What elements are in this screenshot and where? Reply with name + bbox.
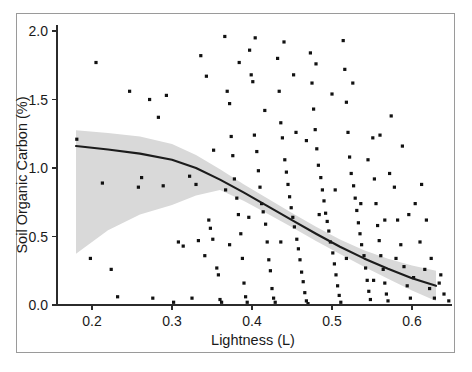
data-point	[288, 195, 291, 198]
data-point	[266, 240, 269, 243]
data-point	[366, 279, 369, 282]
data-point	[272, 297, 275, 300]
data-point	[330, 92, 333, 95]
data-point	[319, 176, 322, 179]
data-point	[162, 184, 165, 187]
data-point	[218, 298, 221, 301]
data-point	[295, 238, 298, 241]
data-point	[285, 171, 288, 174]
data-point	[334, 188, 337, 191]
data-point	[345, 257, 348, 260]
data-point	[379, 254, 382, 257]
data-point	[230, 135, 233, 138]
data-point	[286, 183, 289, 186]
data-point	[290, 206, 293, 209]
data-point	[172, 301, 175, 304]
data-point	[430, 257, 433, 260]
data-point	[447, 299, 450, 302]
data-point	[386, 299, 389, 302]
data-point	[248, 49, 251, 52]
data-point	[367, 290, 370, 293]
data-point	[383, 218, 386, 221]
data-point	[326, 220, 329, 223]
data-point	[246, 301, 249, 304]
data-point	[378, 239, 381, 242]
data-point	[237, 213, 240, 216]
data-point	[355, 209, 358, 212]
data-point	[182, 244, 185, 247]
data-point	[376, 224, 379, 227]
data-point	[217, 273, 220, 276]
x-axis-title: Lightness (L)	[211, 332, 295, 348]
data-point	[390, 114, 393, 117]
data-point	[199, 54, 202, 57]
data-point	[264, 223, 267, 226]
data-point	[188, 175, 191, 178]
data-point	[257, 169, 260, 172]
data-point	[382, 268, 385, 271]
data-point	[394, 257, 397, 260]
data-point	[407, 213, 410, 216]
data-point	[255, 150, 258, 153]
data-point	[433, 297, 436, 300]
data-point	[128, 90, 131, 93]
data-point	[418, 240, 421, 243]
data-point	[278, 90, 281, 93]
data-point	[251, 80, 254, 83]
data-point	[352, 184, 355, 187]
data-point	[354, 197, 357, 200]
scatter-plot: 0.00.51.01.52.00.20.30.40.50.6 Soil Orga…	[0, 0, 472, 372]
data-point	[300, 271, 303, 274]
data-point	[409, 297, 412, 300]
data-point	[262, 210, 265, 213]
data-point	[321, 188, 324, 191]
data-point	[334, 273, 337, 276]
data-point	[250, 73, 253, 76]
confidence-band-area	[76, 130, 436, 301]
data-point	[345, 101, 348, 104]
data-point	[294, 131, 297, 134]
data-point	[282, 40, 285, 43]
x-tick-label: 0.5	[322, 313, 342, 329]
data-point	[148, 98, 151, 101]
data-point	[350, 172, 353, 175]
data-point	[309, 51, 312, 54]
data-point	[357, 221, 360, 224]
y-tick-label: 0.5	[29, 229, 49, 245]
data-point	[223, 35, 226, 38]
data-point	[438, 281, 441, 284]
data-point	[226, 90, 229, 93]
y-tick-label: 2.0	[29, 23, 49, 39]
data-point	[224, 188, 227, 191]
x-tick-label: 0.2	[82, 313, 102, 329]
data-point	[396, 218, 399, 221]
data-point	[342, 39, 345, 42]
data-point	[305, 139, 308, 142]
data-point	[247, 216, 250, 219]
data-point	[263, 109, 266, 112]
data-point	[406, 284, 409, 287]
data-point	[343, 68, 346, 71]
data-point	[137, 186, 140, 189]
data-point	[291, 216, 294, 219]
data-point	[238, 61, 241, 64]
data-point	[177, 240, 180, 243]
data-point	[298, 258, 301, 261]
data-point	[314, 128, 317, 131]
data-point	[388, 172, 391, 175]
data-point	[205, 75, 208, 78]
data-point	[207, 218, 210, 221]
data-point	[439, 273, 442, 276]
data-point	[110, 268, 113, 271]
x-tick-label: 0.3	[162, 313, 182, 329]
data-point	[383, 281, 386, 284]
data-point	[374, 202, 377, 205]
y-tick-label: 0.0	[29, 297, 49, 313]
data-point	[331, 251, 334, 254]
data-point	[228, 102, 231, 105]
data-point	[369, 298, 372, 301]
data-point	[231, 154, 234, 157]
data-point	[140, 176, 143, 179]
data-point	[89, 257, 92, 260]
data-point	[339, 301, 342, 304]
